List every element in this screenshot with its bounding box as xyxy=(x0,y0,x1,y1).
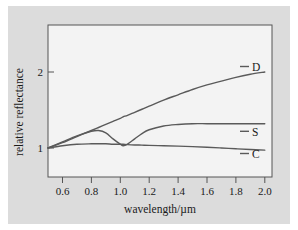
x-tick-label-0: 0.6 xyxy=(56,185,70,197)
x-tick-label-3: 1.2 xyxy=(142,185,156,197)
x-tick-label-6: 1.8 xyxy=(229,185,243,197)
curve-label-c: C xyxy=(252,148,260,160)
curve-label-s: S xyxy=(252,126,258,138)
x-tick-label-5: 1.6 xyxy=(200,185,214,197)
x-axis-title: wavelength/µm xyxy=(124,203,196,216)
figure-container: 2 1 relative reflectance 0.6 0.8 1.0 1.2… xyxy=(0,0,298,230)
x-tick-label-7: 2.0 xyxy=(258,185,272,197)
x-tick-label-4: 1.4 xyxy=(171,185,185,197)
y-axis-title: relative reflectance xyxy=(13,68,25,156)
x-axis-ticks xyxy=(63,177,265,183)
chart-svg: 2 1 relative reflectance 0.6 0.8 1.0 1.2… xyxy=(0,0,298,230)
curve-label-d: D xyxy=(252,61,260,73)
y-tick-label-2: 2 xyxy=(38,66,44,78)
x-tick-label-2: 1.0 xyxy=(113,185,127,197)
y-tick-label-1: 1 xyxy=(38,142,44,154)
x-tick-label-1: 0.8 xyxy=(85,185,99,197)
